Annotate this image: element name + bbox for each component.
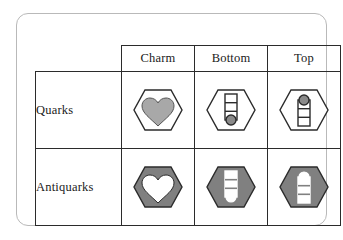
cell-alt-text: Gray hexagon containing a white ladder w… xyxy=(231,213,232,214)
symbol-bottom-antiquark xyxy=(205,161,257,213)
marker-circle-top-icon xyxy=(299,172,309,182)
column-header-charm: Charm xyxy=(122,46,195,72)
cell-alt-text: White hexagon containing a ladder with a… xyxy=(231,136,232,137)
cell-quark-bottom: White hexagon containing a ladder with a… xyxy=(195,72,268,149)
symbol-top-antiquark xyxy=(278,161,330,213)
cell-quark-top: White hexagon containing a ladder with a… xyxy=(268,72,341,149)
cell-alt-text: Gray hexagon containing a white ladder w… xyxy=(304,213,305,214)
cell-antiquark-top: Gray hexagon containing a white ladder w… xyxy=(268,149,341,226)
column-header-top: Top xyxy=(268,46,341,72)
column-header-bottom: Bottom xyxy=(195,46,268,72)
marker-circle-bottom-icon xyxy=(226,192,236,202)
symbol-top-quark xyxy=(278,84,330,136)
cell-antiquark-charm: Gray hexagon containing a white heart xyxy=(122,149,195,226)
marker-circle-bottom-icon xyxy=(226,115,236,125)
symbol-bottom-quark xyxy=(205,84,257,136)
symbol-charm-antiquark xyxy=(132,161,184,213)
cell-quark-charm: White hexagon containing a gray heart xyxy=(122,72,195,149)
table-corner-cell xyxy=(36,46,122,72)
symbol-charm-quark xyxy=(132,84,184,136)
marker-circle-top-icon xyxy=(299,95,309,105)
quark-flavor-table: Charm Bottom Top Quarks White hexagon co… xyxy=(35,45,341,226)
cell-alt-text: White hexagon containing a ladder with a… xyxy=(304,136,305,137)
table-row-antiquarks: Antiquarks Gray hexagon containing a whi… xyxy=(36,149,341,226)
figure-frame: Charm Bottom Top Quarks White hexagon co… xyxy=(16,13,327,226)
row-header-quarks: Quarks xyxy=(36,72,122,149)
table-header-row: Charm Bottom Top xyxy=(36,46,341,72)
cell-alt-text: White hexagon containing a gray heart xyxy=(158,136,159,137)
row-header-antiquarks: Antiquarks xyxy=(36,149,122,226)
table-row-quarks: Quarks White hexagon containing a gray h… xyxy=(36,72,341,149)
cell-alt-text: Gray hexagon containing a white heart xyxy=(158,213,159,214)
cell-antiquark-bottom: Gray hexagon containing a white ladder w… xyxy=(195,149,268,226)
